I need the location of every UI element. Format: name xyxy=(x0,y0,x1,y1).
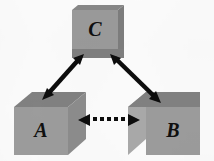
node-c-label: C xyxy=(88,18,102,40)
node-b-label: B xyxy=(165,119,179,141)
node-a[interactable]: A xyxy=(14,92,86,155)
diagram-canvas: C A B xyxy=(0,0,214,161)
node-c-top-face xyxy=(72,5,124,10)
node-c[interactable]: C xyxy=(72,5,124,58)
diagram-svg: C A B xyxy=(0,0,214,161)
node-a-label: A xyxy=(32,119,47,141)
